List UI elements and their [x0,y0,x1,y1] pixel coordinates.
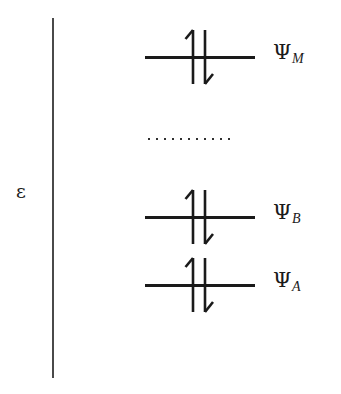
orbital-label-psi-m: ΨM [273,42,304,66]
ellipsis-dot [148,138,150,140]
ellipsis-dot [164,138,166,140]
orbital-symbol: Ψ [273,40,291,64]
electron-pair-arrows [180,185,220,249]
electron-pair-arrows [180,25,220,89]
ellipsis-dot [212,138,214,140]
energy-axis-label: ε [16,182,26,201]
energy-axis-line [52,18,54,378]
ellipsis-dot [228,138,230,140]
orbital-symbol: Ψ [273,268,291,292]
ellipsis-dot [220,138,222,140]
orbital-subscript: A [292,279,301,294]
orbital-label-psi-a: ΨA [273,270,300,294]
orbital-symbol: Ψ [273,200,291,224]
electron-pair-arrows [180,253,220,317]
orbital-subscript: B [292,211,301,226]
orbital-label-psi-b: ΨB [273,202,300,226]
ellipsis-dot [196,138,198,140]
orbital-subscript: M [292,51,304,66]
ellipsis-dot [180,138,182,140]
ellipsis-dot [156,138,158,140]
level-continuation-ellipsis [148,138,230,140]
ellipsis-dot [172,138,174,140]
ellipsis-dot [204,138,206,140]
energy-level-diagram: ε ΨM [0,0,341,394]
ellipsis-dot [188,138,190,140]
